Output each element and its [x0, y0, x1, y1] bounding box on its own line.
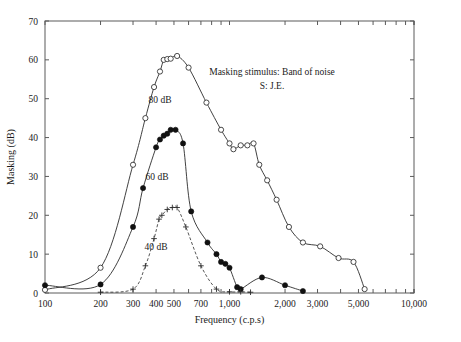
x-axis-tick-labels: 1002003004005007001,0002,0003,0005,00010… [38, 299, 427, 309]
y-tick-label: 60 [29, 55, 39, 65]
data-point-filled-circle [214, 252, 219, 257]
series-curve-60-db [45, 129, 303, 291]
y-tick-label: 20 [29, 211, 39, 221]
plot-frame [45, 21, 414, 293]
x-axis-title: Frequency (c.p.s) [195, 314, 265, 326]
x-tick-label: 3,000 [307, 299, 329, 309]
data-point-open-circle [157, 69, 162, 74]
data-point-filled-circle [205, 240, 210, 245]
data-point-open-circle [257, 162, 262, 167]
x-axis-ticks [45, 21, 414, 293]
x-tick-label: 5,000 [348, 299, 370, 309]
y-axis-title: Masking (dB) [5, 129, 17, 185]
data-point-plus [143, 263, 149, 269]
y-tick-label: 70 [29, 17, 39, 27]
x-tick-label: 1,000 [219, 299, 241, 309]
data-point-plus [183, 224, 189, 230]
x-tick-label: 100 [38, 299, 53, 309]
series-label-80-db: 80 dB [149, 95, 172, 105]
data-point-open-circle [151, 84, 156, 89]
x-tick-label: 200 [93, 299, 108, 309]
series-label-40-db: 40 dB [145, 242, 168, 252]
data-point-open-circle [336, 255, 341, 260]
plot-border [45, 21, 414, 293]
data-point-filled-circle [173, 127, 178, 132]
data-point-filled-circle [189, 209, 194, 214]
data-point-open-circle [351, 259, 356, 264]
data-point-open-circle [300, 240, 305, 245]
y-tick-label: 40 [29, 133, 39, 143]
series-curve-40-db [101, 206, 251, 292]
data-point-open-circle [231, 147, 236, 152]
masking-curves-chart: 1002003004005007001,0002,0003,0005,00010… [0, 0, 461, 342]
subject-note: S: J.E. [260, 81, 285, 91]
data-point-plus [164, 207, 170, 213]
data-point-filled-circle [180, 141, 185, 146]
data-point-open-circle [175, 53, 180, 58]
data-point-plus [198, 263, 204, 269]
data-point-open-circle [168, 56, 173, 61]
series-curve-80-db [45, 56, 365, 290]
data-point-filled-circle [140, 185, 145, 190]
y-tick-label: 0 [33, 289, 38, 299]
data-point-filled-circle [223, 261, 228, 266]
data-point-open-circle [98, 265, 103, 270]
data-point-plus [156, 216, 162, 222]
x-tick-label: 10,000 [401, 299, 427, 309]
y-axis-ticks [45, 21, 414, 293]
data-point-open-circle [204, 100, 209, 105]
data-point-plus [174, 205, 180, 211]
x-tick-label: 400 [149, 299, 164, 309]
data-point-plus [98, 289, 104, 295]
series-label-60-db: 60 dB [146, 172, 169, 182]
data-point-filled-circle [98, 282, 103, 287]
y-tick-label: 30 [29, 172, 39, 182]
masking-stimulus-note: Masking stimulus: Band of noise [209, 67, 335, 77]
data-point-open-circle [238, 143, 243, 148]
y-tick-label: 50 [29, 94, 39, 104]
x-tick-label: 700 [194, 299, 209, 309]
series-labels: 80 dB60 dB40 dB [145, 95, 172, 253]
data-point-open-circle [218, 127, 223, 132]
data-curves [45, 56, 365, 293]
data-markers [42, 53, 367, 295]
data-point-filled-circle [168, 127, 173, 132]
data-point-open-circle [362, 287, 367, 292]
chart-annotations: Masking stimulus: Band of noiseS: J.E. [209, 67, 335, 91]
data-point-open-circle [143, 116, 148, 121]
data-point-open-circle [318, 244, 323, 249]
y-axis-tick-labels: 010203040506070 [29, 17, 39, 299]
data-point-plus [227, 289, 233, 295]
data-point-filled-circle [282, 283, 287, 288]
data-point-open-circle [274, 197, 279, 202]
data-point-filled-circle [227, 265, 232, 270]
data-point-filled-circle [300, 288, 305, 293]
data-point-filled-circle [130, 224, 135, 229]
data-point-plus [130, 286, 136, 292]
chart-figure: 1002003004005007001,0002,0003,0005,00010… [0, 0, 461, 342]
data-point-filled-circle [153, 145, 158, 150]
data-point-plus [151, 236, 157, 242]
data-point-open-circle [245, 143, 250, 148]
data-point-open-circle [227, 141, 232, 146]
x-tick-label: 2,000 [274, 299, 296, 309]
data-point-open-circle [186, 65, 191, 70]
data-point-open-circle [130, 162, 135, 167]
data-point-open-circle [251, 141, 256, 146]
data-point-filled-circle [259, 275, 264, 280]
x-tick-label: 300 [126, 299, 141, 309]
x-tick-label: 500 [167, 299, 182, 309]
data-point-open-circle [286, 224, 291, 229]
y-tick-label: 10 [29, 250, 39, 260]
data-point-plus [248, 289, 254, 295]
data-point-open-circle [265, 178, 270, 183]
data-point-filled-circle [42, 283, 47, 288]
